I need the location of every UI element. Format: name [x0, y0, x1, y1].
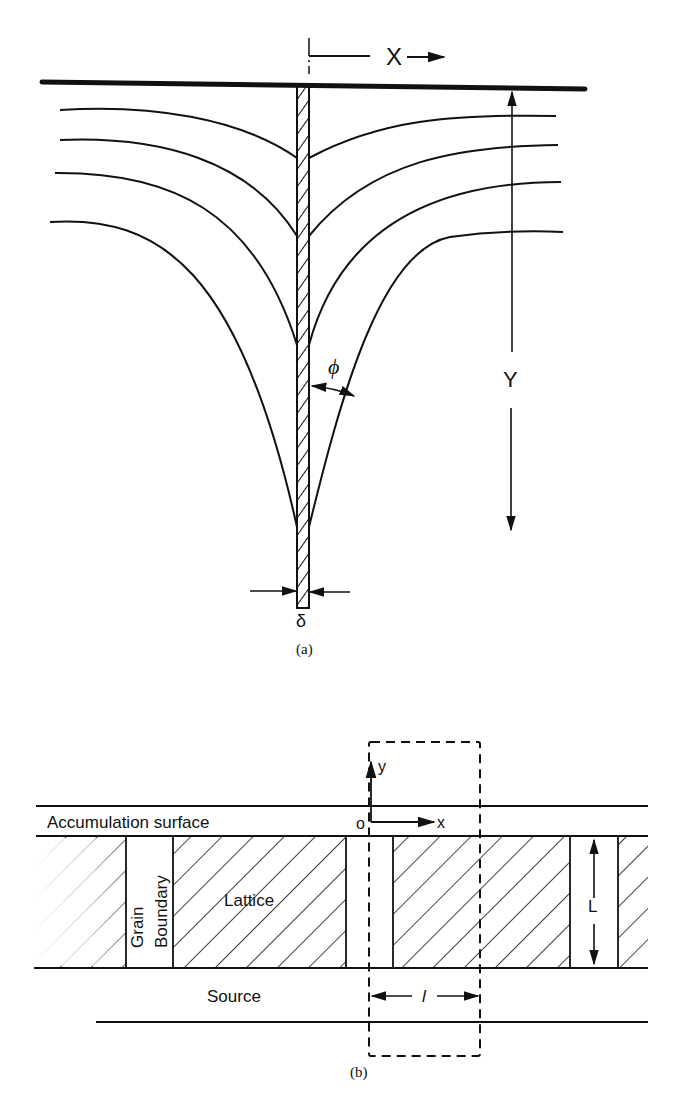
grain-boundary-strip: [297, 86, 309, 608]
x-label: X: [386, 43, 402, 70]
thickness-label: L: [588, 897, 597, 916]
contour-left-2: [60, 140, 297, 236]
source-label: Source: [207, 987, 261, 1006]
boundary-label: Boundary: [152, 875, 171, 948]
surface-line: [42, 82, 585, 89]
lattice-label: Lattice: [224, 891, 274, 910]
figure-a: X ϕ Y δ (a): [42, 38, 585, 658]
origin-label: o: [356, 815, 365, 832]
grain-label: Grain: [128, 906, 147, 948]
contour-right-2: [309, 145, 558, 236]
contour-right-1: [309, 116, 556, 158]
y-label: Y: [503, 367, 518, 392]
delta-label: δ: [296, 611, 306, 631]
y-axis-label: y: [378, 758, 386, 775]
contour-right-3: [309, 182, 561, 345]
caption-a: (a): [296, 641, 313, 658]
contour-right-4: [309, 231, 563, 527]
period-label: l: [422, 987, 427, 1006]
contour-left-4: [50, 221, 297, 527]
caption-b: (b): [350, 1064, 368, 1081]
figure-b: Accumulation surface Grain Boundary Latt…: [30, 742, 648, 1081]
figure-canvas: X ϕ Y δ (a): [0, 0, 683, 1110]
faded-left-edge: [30, 838, 140, 966]
x-axis-label: x: [437, 814, 445, 831]
angle-label: ϕ: [328, 354, 339, 379]
accumulation-surface-label: Accumulation surface: [47, 813, 210, 832]
